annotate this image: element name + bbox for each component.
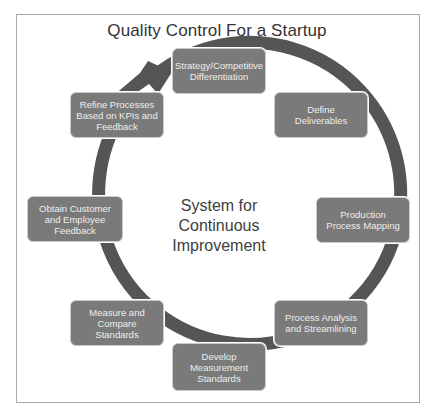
step-obtain-feedback: Obtain Customer and Employee Feedback	[27, 196, 123, 242]
step-production-mapping: Production Process Mapping	[316, 197, 410, 243]
step-measure-compare: Measure and Compare Standards	[70, 300, 164, 346]
step-refine-processes: Refine Processes Based on KPIs and Feedb…	[70, 92, 164, 138]
step-strategy: Strategy/Competitive Differentiation	[172, 48, 266, 94]
step-develop-standards: Develop Measurement Standards	[172, 343, 266, 391]
step-process-analysis: Process Analysis and Streamlining	[274, 300, 368, 346]
center-label: System for Continuous Improvement	[159, 196, 279, 256]
diagram-title: Quality Control For a Startup	[0, 21, 434, 41]
step-define-deliverables: Define Deliverables	[274, 92, 368, 138]
